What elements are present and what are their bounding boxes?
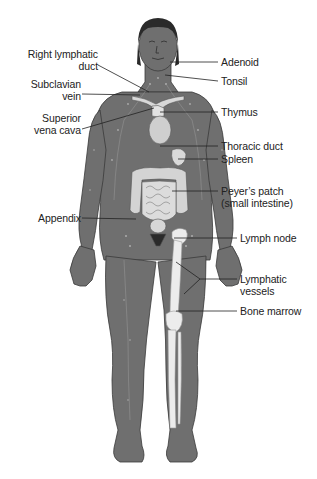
bladder-shape: [150, 219, 166, 233]
label-spleen: Spleen: [221, 153, 253, 165]
label-thymus: Thymus: [221, 106, 258, 118]
label-subclavian-vein: Subclavian vein: [31, 78, 81, 102]
label-lymph-node: Lymph node: [240, 232, 296, 244]
label-superior-vena-cava: Superior vena cava: [34, 112, 81, 136]
label-bone-marrow: Bone marrow: [240, 305, 301, 317]
leader-tonsil: [165, 75, 218, 81]
heart-shape: [149, 116, 171, 144]
thymus-shape: [152, 105, 164, 117]
label-right-lymphatic-duct: Right lymphatic duct: [28, 48, 98, 72]
leader-right-lymphatic-duct: [98, 65, 149, 92]
fibula: [178, 332, 181, 424]
label-lymphatic-vessels: Lymphatic vessels: [240, 273, 287, 297]
label-thoracic-duct: Thoracic duct: [221, 140, 283, 152]
label-adenoid: Adenoid: [221, 56, 259, 68]
label-tonsil: Tonsil: [221, 75, 247, 87]
tibia: [168, 330, 176, 428]
label-appendix: Appendix: [38, 212, 81, 224]
label-peyers-patch: Peyer’s patch (small intestine): [221, 185, 293, 209]
